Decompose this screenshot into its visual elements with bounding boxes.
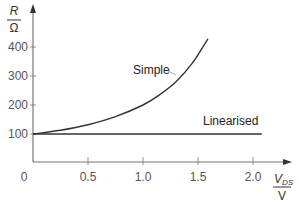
x-tick-label: 0.5 <box>80 170 97 184</box>
y-tick-label: 300 <box>8 69 28 83</box>
y-tick-label: 400 <box>8 40 28 54</box>
y-axis-label-numerator: R <box>10 4 19 18</box>
x-axis-label-numerator: VDS <box>274 172 294 187</box>
x-tick-label: 0 <box>21 170 28 184</box>
series-label-linearised: Linearised <box>203 114 258 128</box>
axes <box>30 4 292 165</box>
x-axis-arrow-icon <box>283 159 292 165</box>
y-tick-label: 100 <box>8 127 28 141</box>
chart: 10020030040000.51.01.52.0 R Ω VDS V Simp… <box>0 0 299 208</box>
y-tick-label: 200 <box>8 98 28 112</box>
x-axis-label: VDS V <box>273 172 294 203</box>
y-axis-label-denominator: Ω <box>10 21 19 35</box>
series-line-simple <box>33 39 208 134</box>
x-axis-label-denominator: V <box>278 189 286 203</box>
y-axis-label: R Ω <box>7 4 21 35</box>
y-axis-arrow-icon <box>30 4 36 13</box>
x-tick-label: 1.5 <box>190 170 207 184</box>
series-label-simple: Simple <box>133 63 170 77</box>
x-tick-label: 2.0 <box>245 170 262 184</box>
x-tick-label: 1.0 <box>135 170 152 184</box>
